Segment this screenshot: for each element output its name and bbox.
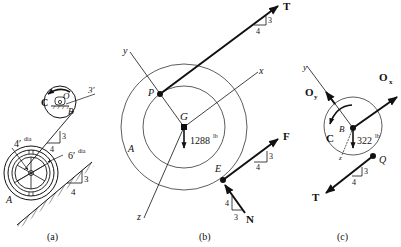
label-outer-dia: 6′ [68,150,75,161]
label-z: z [338,154,342,162]
label-C: C [41,97,48,108]
label-x: x [258,65,264,76]
label-inner-dia: 4′ [14,138,21,149]
label-E: E [214,163,221,174]
label-Oy-sub: y [314,93,318,101]
label-length: 3′ [87,85,96,95]
label-N: N [246,213,254,225]
label-outer-dia-suffix: dia [78,148,86,154]
T-slope-rise: 3 [364,167,368,176]
label-Q: Q [379,154,387,165]
incline-slope-rise: 3 [84,174,89,184]
label-F: F [283,130,290,142]
y-axis [130,52,184,127]
label-Ox: O [379,71,388,83]
T-slope-rise: 3 [268,16,272,25]
label-B: B [339,124,345,134]
label-C: C [326,132,334,144]
cable-slope-run: 4 [50,145,54,154]
point-P [157,91,163,97]
label-A: A [5,194,13,205]
caption-a: (a) [47,231,58,243]
z-axis [144,127,184,218]
panel-a: C O B 3′ 3 4 4′ dia 6′ dia [4,85,96,243]
x-axis [184,72,258,127]
label-G: G [180,110,188,122]
incline-slope-run: 4 [71,187,76,197]
label-y: y [122,45,128,56]
free-body-diagrams: C O B 3′ 3 4 4′ dia 6′ dia [0,0,401,247]
diameter-line [14,162,50,183]
F-slope-rise: 3 [269,152,273,161]
label-Oy: O [305,86,314,98]
T-slope-run: 4 [352,178,356,187]
label-inner-dia-suffix: dia [24,136,32,142]
weight-unit: lb [375,133,380,139]
label-A: A [127,143,135,154]
label-P: P [147,87,154,98]
F-slope-run: 4 [256,163,260,172]
cable-slope-rise: 3 [62,132,66,141]
weight-value: 322 [357,135,372,146]
label-O: O [63,91,70,101]
label-z: z [136,211,141,222]
label-T: T [312,191,320,203]
panel-b: y x z P T 3 4 G 1288 lb A E F 3 4 N 4 3 … [121,0,291,243]
N-slope-run: 3 [234,213,238,222]
force-T-arrow [160,6,278,94]
caption-b: (b) [199,231,211,243]
caption-c: (c) [337,231,348,243]
N-slope-rise: 4 [225,199,229,208]
label-Ox-sub: x [389,78,393,86]
length-line [66,94,95,104]
panel-c: y z O y O x C B 322 lb Q T 3 4 (c) [302,62,397,243]
weight-unit: lb [213,133,218,139]
couple-C-arrow [330,105,352,124]
T-slope-run: 4 [256,27,260,36]
weight-value: 1288 [190,135,210,146]
force-Oy-arrow [326,92,335,104]
force-Ox-arrow [353,97,397,128]
label-y: y [302,62,307,72]
label-T: T [283,0,291,12]
